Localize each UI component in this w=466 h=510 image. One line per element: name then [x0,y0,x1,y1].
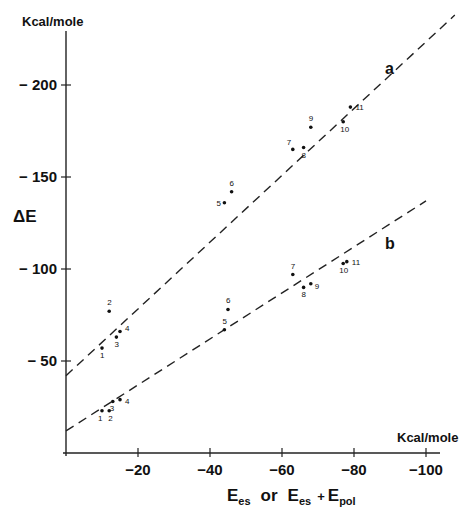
data-point-b-10 [341,262,345,266]
x-axis-unit: Kcal/mole [397,430,458,445]
data-point-b-3 [111,400,115,404]
data-point-a-3 [115,335,119,339]
y-tick-label: − 100 [19,260,57,277]
y-tick-label: − 150 [19,168,57,185]
point-label: 9 [309,114,314,123]
data-point-b-9 [309,282,313,286]
y-tick-label: − 50 [27,352,57,369]
data-point-a-10 [341,120,345,124]
axes: − 50− 100− 150− 200−20−40−60−80−100 [19,31,443,478]
fit-line-b [66,201,426,431]
x-title-sub-pol: pol [339,495,356,507]
point-label: 7 [287,138,292,147]
point-label: 1 [98,414,103,423]
data-point-a-6 [230,190,234,194]
x-title-sub-es1: es [238,495,250,507]
point-label: 8 [302,151,307,160]
data-points: 12345678910111234567891011 [98,103,364,423]
data-point-b-1 [100,409,104,413]
data-point-b-5 [223,328,227,332]
chart-canvas: − 50− 100− 150− 200−20−40−60−80−100 1234… [0,0,466,510]
x-title-or: or [261,486,278,505]
point-label: 11 [352,258,361,267]
fit-line-a [66,15,455,376]
point-label: 4 [125,324,130,333]
point-label: 7 [291,262,296,271]
x-axis-title: EesorEes+Epol [227,486,356,507]
data-point-b-8 [302,286,306,290]
point-label: 6 [230,179,235,188]
point-label: 5 [216,199,221,208]
point-label: 8 [302,290,307,299]
data-point-b-6 [226,308,230,312]
point-label: 1 [100,351,105,360]
point-label: 4 [125,397,130,406]
point-label: 10 [340,125,349,134]
data-point-a-7 [291,148,295,152]
data-point-a-11 [349,105,353,109]
y-tick-label: − 200 [19,76,57,93]
point-label: 11 [355,103,364,112]
point-label: 6 [226,296,231,305]
x-tick-label: −80 [341,461,366,478]
data-point-b-7 [291,273,295,277]
data-point-a-5 [223,201,227,205]
data-point-a-9 [309,126,313,130]
axis-text: Kcal/mole Kcal/mole ΔE a b EesorEes+Epol [13,14,458,507]
point-label: 5 [222,317,227,326]
data-point-a-8 [302,146,306,150]
data-point-a-1 [100,346,104,350]
data-point-a-4 [118,330,122,334]
x-tick-label: −60 [269,461,294,478]
x-tick-label: −20 [125,461,150,478]
data-point-a-2 [107,310,111,314]
y-axis-title: ΔE [13,207,37,226]
point-label: 9 [315,282,320,291]
x-title-e1: E [227,486,238,505]
x-tick-label: −100 [409,461,443,478]
point-label: 3 [110,404,115,413]
x-title-e3: E [328,486,339,505]
x-title-e2: E [288,486,299,505]
point-label: 2 [108,414,113,423]
series-label-a: a [385,60,394,77]
point-label: 2 [107,298,112,307]
x-title-plus: + [317,489,325,504]
data-point-b-4 [118,398,122,402]
fit-lines [66,15,455,431]
point-label: 3 [114,340,119,349]
x-title-sub-es2: es [299,495,311,507]
data-point-b-11 [345,260,349,264]
point-label: 10 [339,266,348,275]
series-label-b: b [385,235,395,252]
y-axis-unit: Kcal/mole [22,14,83,29]
x-tick-label: −40 [197,461,222,478]
